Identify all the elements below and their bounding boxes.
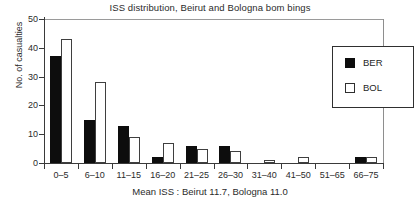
y-tick-label: 50 [0,14,38,24]
x-tick-label: 6–10 [85,170,105,180]
x-tick [180,164,181,169]
x-tick [281,164,282,169]
x-tick-label: 51–65 [320,170,345,180]
y-tick [39,105,44,106]
x-axis-caption: Mean ISS : Beirut 11.7, Bologna 11.0 [0,186,420,197]
bar-chart-figure: ISS distribution, Beirut and Bologna bom… [0,0,420,205]
x-tick [146,164,147,169]
x-tick-label: 26–30 [218,170,243,180]
legend-entry-ber: BER [345,58,383,68]
bar-bol-6 [264,160,275,163]
bar-bol-2 [129,137,140,163]
bar-bol-4 [197,149,208,163]
x-tick [112,164,113,169]
bar-bol-5 [230,151,241,163]
x-tick-label: 31–40 [252,170,277,180]
x-tick [315,164,316,169]
legend-label-bol: BOL [363,83,382,93]
plot-frame-top [44,19,384,20]
x-tick [78,164,79,169]
bar-ber-9 [355,157,366,163]
bar-bol-1 [95,82,106,163]
y-tick [39,48,44,49]
legend-swatch-bol-icon [345,83,355,93]
bar-ber-4 [186,146,197,163]
bar-ber-0 [50,56,61,163]
y-axis-line [44,17,45,165]
x-tick [383,164,384,169]
x-tick-label: 16–20 [150,170,175,180]
x-tick [247,164,248,169]
bar-ber-5 [219,146,230,163]
y-tick [39,77,44,78]
y-tick [39,134,44,135]
y-tick-label: 10 [0,129,38,139]
bar-ber-1 [84,120,95,163]
y-tick-label: 0 [0,158,38,168]
legend-swatch-ber-icon [345,58,355,68]
bar-bol-9 [366,157,377,163]
bar-bol-0 [61,39,72,163]
x-tick-label: 11–15 [117,170,141,180]
x-tick [349,164,350,169]
y-tick-label: 20 [0,100,38,110]
legend-label-ber: BER [363,58,383,68]
bar-bol-7 [298,157,309,163]
x-tick [214,164,215,169]
bar-bol-3 [163,143,174,163]
y-tick [39,19,44,20]
bar-ber-3 [152,157,163,163]
chart-legend: BER BOL [332,46,414,108]
x-tick-label: 41–50 [286,170,311,180]
y-axis-label-group: No. of casualties 01020304050 [0,0,38,205]
x-tick-label: 0–5 [53,170,68,180]
y-tick-label: 30 [0,72,38,82]
bar-ber-2 [118,126,129,163]
chart-title: ISS distribution, Beirut and Bologna bom… [0,2,420,13]
legend-entry-bol: BOL [345,83,382,93]
x-tick [44,164,45,169]
x-tick-label: 66–75 [354,170,379,180]
x-tick-label: 21–25 [184,170,209,180]
y-tick-label: 40 [0,43,38,53]
